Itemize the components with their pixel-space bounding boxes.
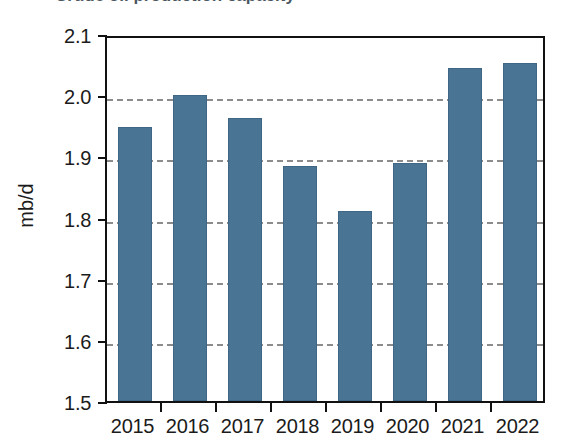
y-tick-label: 1.5	[64, 392, 91, 415]
y-axis-title: mb/d	[12, 150, 40, 260]
x-tick-label: 2019	[331, 415, 374, 438]
x-tick-label: 2015	[111, 415, 154, 438]
x-tick-label: 2017	[221, 415, 264, 438]
x-tick-mark	[380, 403, 382, 412]
bar	[283, 166, 317, 401]
bar	[503, 63, 537, 401]
y-tick-label: 2.0	[64, 86, 91, 109]
x-tick-label: 2021	[441, 415, 484, 438]
bar	[393, 163, 427, 401]
x-tick-mark	[270, 403, 272, 412]
x-tick-mark	[160, 403, 162, 412]
x-tick-mark	[215, 403, 217, 412]
x-tick-mark	[490, 403, 492, 412]
x-axis: 20152016201720182019202020212022	[105, 403, 545, 443]
x-tick-label: 2018	[276, 415, 319, 438]
x-tick-mark	[435, 403, 437, 412]
x-tick-label: 2022	[496, 415, 539, 438]
bar	[228, 118, 262, 401]
x-tick-label: 2020	[386, 415, 429, 438]
bar-chart: 1.51.61.71.81.92.02.1 mb/d 2015201620172…	[0, 0, 564, 443]
bar	[173, 95, 207, 401]
y-tick-label: 1.8	[64, 208, 91, 231]
y-axis-title-label: mb/d	[15, 183, 38, 227]
bar	[448, 68, 482, 401]
y-tick-label: 2.1	[64, 25, 91, 48]
x-tick-label: 2016	[166, 415, 209, 438]
bar	[338, 211, 372, 401]
bar	[118, 127, 152, 401]
y-tick-label: 1.7	[64, 269, 91, 292]
x-tick-mark	[325, 403, 327, 412]
y-tick-label: 1.9	[64, 147, 91, 170]
plot-area	[105, 36, 545, 403]
y-tick-label: 1.6	[64, 330, 91, 353]
bar-series	[107, 38, 543, 401]
